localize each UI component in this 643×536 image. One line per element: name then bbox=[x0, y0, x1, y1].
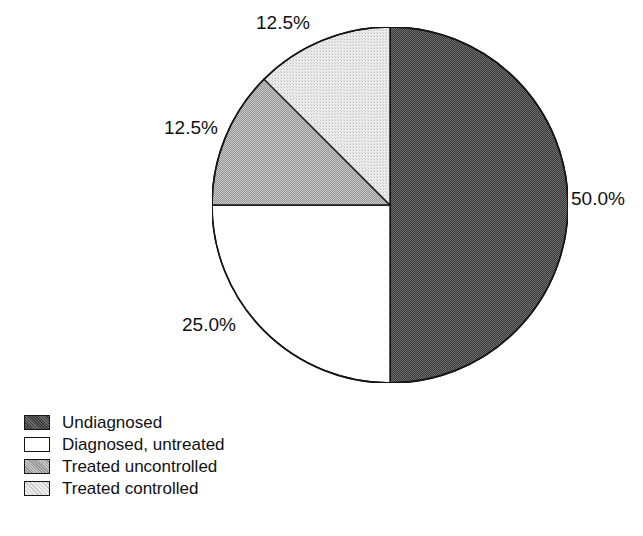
pie-slice-untreated bbox=[212, 205, 390, 383]
pie-slice-undiagnosed bbox=[390, 27, 568, 383]
legend: Undiagnosed Diagnosed, untreated Treated… bbox=[24, 411, 314, 499]
pie-chart-plot bbox=[212, 27, 568, 383]
legend-swatch-uncontrolled bbox=[24, 459, 50, 474]
pie-label-controlled: 12.5% bbox=[256, 13, 310, 32]
legend-label-untreated: Diagnosed, untreated bbox=[62, 436, 225, 453]
pie-svg bbox=[212, 27, 568, 383]
legend-label-uncontrolled: Treated uncontrolled bbox=[62, 458, 217, 475]
legend-item-undiagnosed: Undiagnosed bbox=[24, 411, 314, 433]
legend-item-uncontrolled: Treated uncontrolled bbox=[24, 455, 314, 477]
legend-swatch-controlled bbox=[24, 481, 50, 496]
legend-label-controlled: Treated controlled bbox=[62, 480, 198, 497]
legend-item-untreated: Diagnosed, untreated bbox=[24, 433, 314, 455]
pie-chart-figure: 50.0% 25.0% 12.5% 12.5% Undiagnosed Diag… bbox=[0, 0, 643, 536]
legend-swatch-untreated bbox=[24, 437, 50, 452]
legend-swatch-undiagnosed bbox=[24, 415, 50, 430]
pie-label-untreated: 25.0% bbox=[182, 315, 236, 334]
legend-item-controlled: Treated controlled bbox=[24, 477, 314, 499]
pie-label-uncontrolled: 12.5% bbox=[164, 118, 218, 137]
legend-label-undiagnosed: Undiagnosed bbox=[62, 414, 162, 431]
pie-label-undiagnosed: 50.0% bbox=[571, 189, 625, 208]
